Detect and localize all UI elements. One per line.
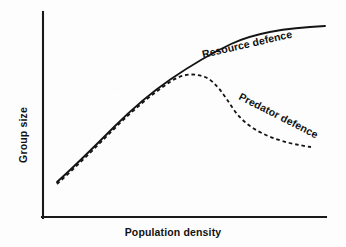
y-axis-label: Group size [17, 107, 29, 163]
curve-predator-defence [57, 75, 311, 184]
chart-plot-area: Resource defence Predator defence [0, 0, 346, 247]
chart-figure: Resource defence Predator defence Group … [0, 0, 346, 247]
x-axis-label: Population density [0, 226, 346, 238]
series-label-predator-defence: Predator defence [237, 90, 320, 140]
series-label-resource-defence: Resource defence [201, 28, 293, 60]
curve-resource-defence [57, 26, 325, 182]
y-axis-label-wrapper: Group size [15, 100, 31, 170]
